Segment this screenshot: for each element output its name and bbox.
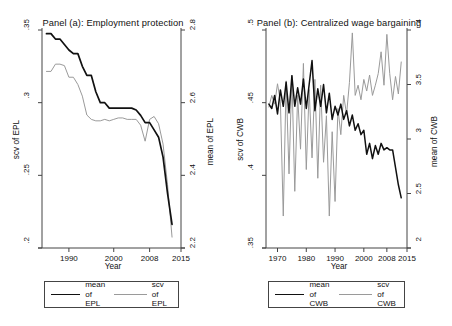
panel-b-ytick: .5 xyxy=(246,19,255,26)
panel-b-y2tick: 3.5 xyxy=(414,74,423,85)
legend-line-scv-cwb xyxy=(339,294,373,295)
panel-b-xtick: 1990 xyxy=(322,254,348,263)
panel-b-y2tick: 2 xyxy=(414,237,423,241)
legend-line-mean-epl xyxy=(51,294,80,295)
panel-a-plot xyxy=(0,0,226,326)
panel-b-xtick: 1980 xyxy=(293,254,319,263)
panel-a-xtick: 2015 xyxy=(168,254,194,263)
panel-b-ytick: .35 xyxy=(246,237,255,248)
legend-label-mean-epl: mean of EPL xyxy=(85,280,110,309)
panel-a-xtick: 2000 xyxy=(101,254,127,263)
panel-a-y2tick: 2.4 xyxy=(188,164,197,175)
legend-line-mean-cwb xyxy=(275,294,304,295)
panel-b-ytick: .45 xyxy=(246,92,255,103)
panel-b-y-axis-label: scv of CWB xyxy=(236,118,245,161)
panel-a-legend: mean of EPL scv of EPL xyxy=(44,281,179,308)
panel-b-y2tick: 2.5 xyxy=(414,183,423,194)
panel-a-y2tick: 2.2 xyxy=(188,237,197,248)
panel-b-xtick: 2015 xyxy=(394,254,420,263)
panel-b-x-axis-label: Year xyxy=(226,262,452,271)
panel-b-y2tick: 4 xyxy=(414,19,423,23)
panel-a-y2tick: 2.8 xyxy=(188,19,197,30)
panel-b-xtick: 1970 xyxy=(265,254,291,263)
panel-b-y2tick: 3 xyxy=(414,128,423,132)
panel-a-xtick: 1990 xyxy=(56,254,82,263)
panel-a-ytick: .2 xyxy=(22,237,31,244)
panel-a: Panel (a): Employment protection scv of … xyxy=(0,0,226,326)
panel-b-legend: mean of CWB scv of CWB xyxy=(268,281,405,308)
figure-root: Panel (a): Employment protection scv of … xyxy=(0,0,452,326)
panel-a-ytick: .35 xyxy=(22,19,31,30)
panel-b-y2-axis-label: mean of CWB xyxy=(430,116,439,167)
panel-a-ytick: .25 xyxy=(22,164,31,175)
panel-a-ytick: .3 xyxy=(22,92,31,99)
panel-a-y2tick: 2.6 xyxy=(188,92,197,103)
panel-b-plot xyxy=(226,0,452,326)
legend-label-scv-cwb: scv of CWB xyxy=(377,280,398,309)
panel-a-y-axis-label: scv of EPL xyxy=(12,120,21,159)
panel-a-xtick: 2008 xyxy=(137,254,163,263)
legend-label-mean-cwb: mean of CWB xyxy=(309,280,334,309)
panel-a-x-axis-label: Year xyxy=(0,262,226,271)
panel-a-y2-axis-label: mean of EPL xyxy=(206,118,215,165)
legend-line-scv-epl xyxy=(114,294,147,295)
legend-label-scv-epl: scv of EPL xyxy=(152,280,172,309)
panel-b-ytick: .4 xyxy=(246,164,255,171)
panel-b: Panel (b): Centralized wage bargaining s… xyxy=(226,0,452,326)
